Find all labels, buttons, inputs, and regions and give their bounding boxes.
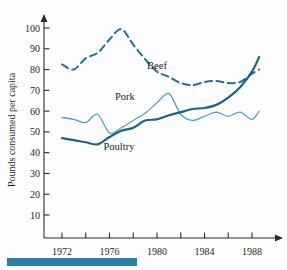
y-tick-label: 90 (30, 43, 40, 54)
annotation-poultry: Poultry (104, 141, 136, 152)
line-chart: 102030405060708090100 197219761980198419… (0, 0, 287, 270)
y-tick-label: 60 (30, 106, 40, 117)
chart-figure: 102030405060708090100 197219761980198419… (0, 0, 287, 270)
y-axis-title: Pounds consumed per capita (6, 72, 17, 187)
y-tick-label: 100 (25, 23, 40, 34)
x-tick-label: 1984 (195, 246, 215, 257)
x-tick-label: 1976 (100, 246, 120, 257)
y-tick-label: 30 (30, 168, 40, 179)
y-tick-labels: 102030405060708090100 (25, 23, 40, 221)
data-series (62, 29, 259, 145)
annotation-pork: Pork (115, 91, 136, 102)
y-tick-label: 80 (30, 64, 40, 75)
y-axis-arrowhead (41, 14, 48, 22)
x-tick-labels: 19721976198019841988 (52, 246, 262, 257)
x-tick-label: 1980 (147, 246, 167, 257)
x-axis-arrowhead (275, 235, 283, 242)
y-tick-label: 70 (30, 85, 40, 96)
series-annotations: BeefPorkPoultry (104, 60, 168, 152)
y-tick-label: 50 (30, 126, 40, 137)
axes (41, 14, 283, 241)
x-tick-label: 1988 (242, 246, 262, 257)
y-tick-label: 10 (30, 210, 40, 221)
series-line-beef (62, 29, 259, 85)
series-line-pork (62, 93, 259, 133)
annotation-beef: Beef (147, 60, 167, 71)
footer-accent-bar (7, 258, 137, 266)
x-tick-label: 1972 (52, 246, 72, 257)
y-tick-label: 40 (30, 147, 40, 158)
y-tick-label: 20 (30, 189, 40, 200)
